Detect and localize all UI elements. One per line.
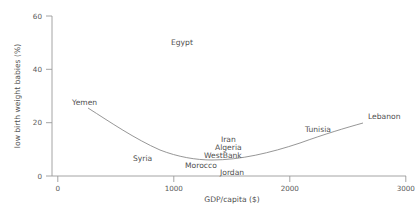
x-tick-label-2000: 2000 (281, 184, 300, 193)
scatter-plot: 0 20 40 60 0 1000 2000 3000 GDP/capita (… (0, 0, 419, 206)
y-tick-label-60: 60 (33, 12, 43, 21)
x-tick-label-1000: 1000 (165, 184, 184, 193)
y-tick-label-20: 20 (33, 118, 43, 127)
x-tick-label-3000: 3000 (397, 184, 416, 193)
x-tick-label-0: 0 (56, 184, 61, 193)
point-label-iran: Iran (221, 135, 236, 144)
point-label-tunisia: Tunisia (304, 125, 331, 134)
point-label-westbank: WestBank (204, 151, 242, 160)
y-axis-title: low birth weight babies (%) (13, 44, 22, 148)
chart-figure: 0 20 40 60 0 1000 2000 3000 GDP/capita (… (0, 0, 419, 206)
point-label-algeria: Algeria (215, 143, 242, 152)
point-label-jordan: Jordan (219, 168, 244, 177)
y-tick-label-40: 40 (33, 65, 43, 74)
x-axis-title: GDP/capita ($) (204, 195, 259, 204)
y-tick-label-0: 0 (37, 172, 42, 181)
point-label-syria: Syria (133, 154, 152, 163)
point-label-yemen: Yemen (71, 98, 97, 107)
point-label-lebanon: Lebanon (368, 112, 401, 121)
point-label-morocco: Morocco (185, 161, 217, 170)
point-label-egypt: Egypt (171, 38, 193, 47)
